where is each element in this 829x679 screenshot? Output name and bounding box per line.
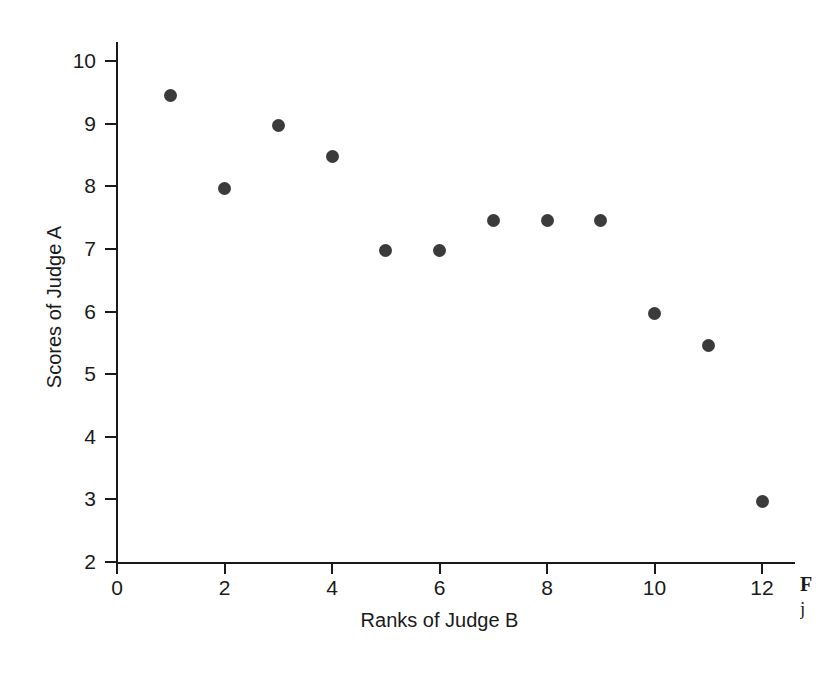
y-tick-label-3: 3 — [36, 488, 96, 509]
x-tick-label-8: 8 — [517, 576, 577, 600]
data-point — [487, 214, 500, 227]
y-tick-label-2: 2 — [36, 551, 96, 572]
x-tick-4 — [331, 563, 333, 574]
caption-fragment: F j — [800, 572, 829, 621]
x-tick-0 — [116, 563, 118, 574]
x-tick-label-10: 10 — [625, 576, 685, 600]
data-point — [326, 150, 339, 163]
y-tick-4 — [105, 436, 117, 438]
x-tick-8 — [546, 563, 548, 574]
data-point — [433, 244, 446, 257]
y-axis-title: Scores of Judge A — [42, 157, 66, 457]
y-tick-8 — [105, 185, 117, 187]
x-tick-2 — [224, 563, 226, 574]
x-tick-label-text: 2 — [195, 576, 255, 600]
data-point — [594, 214, 607, 227]
y-tick-label-text: 2 — [36, 551, 96, 572]
y-tick-label-text: 9 — [36, 113, 96, 134]
x-tick-label-12: 12 — [732, 576, 792, 600]
data-point — [541, 214, 554, 227]
y-tick-9 — [105, 123, 117, 125]
caption-fragment-line-2: j — [800, 597, 829, 621]
data-point — [218, 182, 231, 195]
x-tick-label-text: 0 — [87, 576, 147, 600]
data-point — [164, 89, 177, 102]
x-tick-label-text: 4 — [302, 576, 362, 600]
x-tick-10 — [654, 563, 656, 574]
x-axis-line — [116, 562, 795, 564]
x-tick-label-6: 6 — [410, 576, 470, 600]
data-point — [648, 307, 661, 320]
y-tick-label-text: 10 — [36, 50, 96, 71]
data-point — [379, 244, 392, 257]
y-tick-label-9: 9 — [36, 113, 96, 134]
y-tick-5 — [105, 373, 117, 375]
y-tick-label-10: 10 — [36, 50, 96, 71]
x-tick-label-4: 4 — [302, 576, 362, 600]
y-tick-7 — [105, 248, 117, 250]
data-point — [756, 495, 769, 508]
data-point — [702, 339, 715, 352]
x-axis-title: Ranks of Judge B — [117, 608, 762, 632]
y-tick-10 — [105, 60, 117, 62]
x-tick-label-text: 6 — [410, 576, 470, 600]
x-tick-label-text: 10 — [625, 576, 685, 600]
caption-fragment-line-1: F — [800, 572, 829, 597]
y-tick-3 — [105, 498, 117, 500]
scatter-plot-figure: 2345678910 024681012 Ranks of Judge B Sc… — [0, 0, 829, 679]
x-tick-6 — [439, 563, 441, 574]
x-tick-label-0: 0 — [87, 576, 147, 600]
y-tick-label-text: 3 — [36, 488, 96, 509]
x-tick-label-2: 2 — [195, 576, 255, 600]
x-tick-label-text: 12 — [732, 576, 792, 600]
x-tick-12 — [761, 563, 763, 574]
plot-area — [117, 61, 762, 562]
y-tick-6 — [105, 311, 117, 313]
x-tick-label-text: 8 — [517, 576, 577, 600]
data-point — [272, 119, 285, 132]
